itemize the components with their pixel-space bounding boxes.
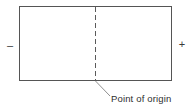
point-of-origin-caption: Point of origin (111, 93, 171, 104)
diagram-canvas: – + Point of origin (0, 0, 191, 111)
negative-direction-sign: – (4, 40, 16, 51)
origin-leader-line (96, 81, 111, 96)
positive-direction-sign: + (176, 39, 188, 50)
